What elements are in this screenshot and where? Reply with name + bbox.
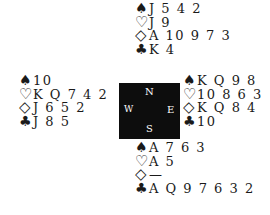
- north-diamonds: ◇A 10 9 7 3: [135, 29, 231, 43]
- south-spades: ♠A 7 6 3: [135, 141, 255, 155]
- west-diamonds: ◇J 6 5 2: [19, 101, 108, 115]
- west-hand: ♠10 ♡K Q 7 4 2 ◇J 6 5 2 ♣J 8 5: [19, 74, 108, 128]
- west-spades: ♠10: [19, 74, 108, 88]
- east-clubs: ♣10: [183, 115, 263, 129]
- club-icon: ♣: [19, 115, 33, 129]
- north-hand: ♠J 5 4 2 ♡J 9 ◇A 10 9 7 3 ♣K 4: [135, 2, 231, 56]
- club-icon: ♣: [135, 43, 149, 57]
- south-clubs: ♣A Q 9 7 6 3 2: [135, 182, 255, 196]
- club-icon: ♣: [183, 115, 197, 129]
- south-diamonds: ◇—: [135, 168, 255, 182]
- south-hearts: ♡A 5: [135, 155, 255, 169]
- east-hand: ♠K Q 9 8 ♡10 8 6 3 ◇K Q 8 4 ♣10: [183, 74, 263, 128]
- club-icon: ♣: [135, 182, 149, 196]
- north-clubs: ♣K 4: [135, 43, 231, 57]
- south-hand: ♠A 7 6 3 ♡A 5 ◇— ♣A Q 9 7 6 3 2: [135, 141, 255, 195]
- west-hearts: ♡K Q 7 4 2: [19, 88, 108, 102]
- north-hearts: ♡J 9: [135, 16, 231, 30]
- compass-east: E: [167, 104, 174, 115]
- west-clubs: ♣J 8 5: [19, 115, 108, 129]
- compass-north: N: [145, 86, 154, 97]
- compass-box: N W E S: [119, 83, 180, 139]
- north-spades: ♠J 5 4 2: [135, 2, 231, 16]
- compass-west: W: [124, 104, 133, 114]
- compass-south: S: [146, 123, 153, 134]
